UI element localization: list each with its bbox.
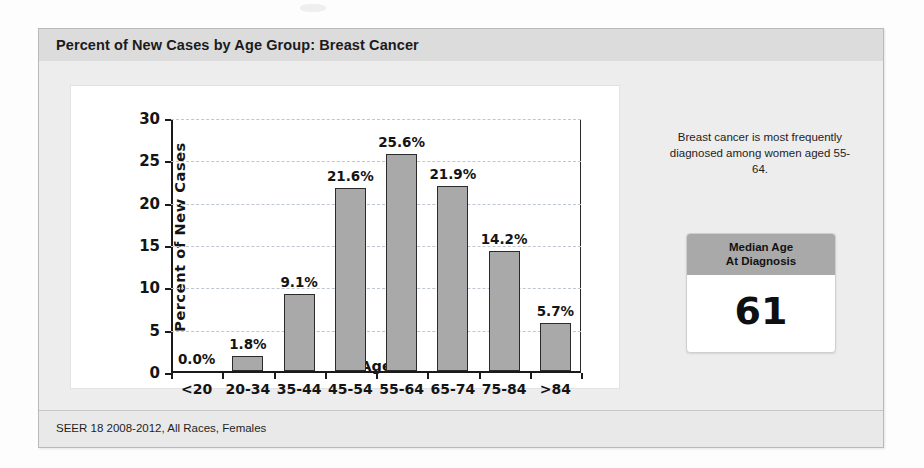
x-axis-tick-label: 55-64 [379,381,424,397]
y-axis-tick-label: 20 [139,195,160,213]
scanned-page: Percent of New Cases by Age Group: Breas… [0,0,924,468]
x-axis-tick-label: 35-44 [277,381,322,397]
bar-value-label: 25.6% [378,134,425,150]
source-note: SEER 18 2008-2012, All Races, Females [56,422,266,434]
bar [386,154,417,371]
y-axis-tick-label: 10 [139,279,160,297]
x-tick [530,373,532,379]
y-tick [165,288,171,290]
median-age-card: Median Age At Diagnosis 61 [686,233,836,353]
x-tick [376,373,378,379]
y-tick [165,161,171,163]
bar-value-label: 21.6% [327,168,374,184]
report-body: Percent of New Cases Age 051015202530 0.… [39,61,883,411]
bar-value-label: 21.9% [429,166,476,182]
x-tick [427,373,429,379]
chart-axes: 051015202530 0.0%1.8%9.1%21.6%25.6%21.9%… [171,119,581,373]
x-tick [581,373,583,379]
title-bar: Percent of New Cases by Age Group: Breas… [39,29,883,62]
y-axis-tick-label: 5 [150,322,160,340]
bar-value-label: 1.8% [229,336,266,352]
y-axis-tick-label: 0 [150,364,160,382]
median-age-header-line1: Median Age [687,240,835,254]
x-tick [479,373,481,379]
bar [540,323,571,371]
bar-value-label: 9.1% [280,274,317,290]
y-axis-tick-label: 25 [139,152,160,170]
scan-artifact [300,4,326,12]
y-tick [165,331,171,333]
median-age-card-header: Median Age At Diagnosis [687,234,835,275]
bar [335,188,366,371]
y-tick [165,119,171,121]
bar [232,356,263,371]
y-tick [165,246,171,248]
x-axis-tick-label: <20 [181,381,212,397]
x-axis-tick-label: >84 [540,381,571,397]
y-tick [165,204,171,206]
x-axis-tick-label: 65-74 [430,381,475,397]
bar [284,294,315,371]
side-panel: Breast cancer is most frequently diagnos… [659,85,861,387]
gridline [171,161,581,162]
bar [437,186,468,371]
y-axis-tick-label: 30 [139,110,160,128]
x-tick [325,373,327,379]
x-tick [171,373,173,379]
y-axis-tick-label: 15 [139,237,160,255]
x-tick [274,373,276,379]
x-tick [222,373,224,379]
x-axis-tick-label: 20-34 [225,381,270,397]
chart-plot-panel: Percent of New Cases Age 051015202530 0.… [70,85,620,389]
gridline [171,119,581,120]
footer-bar: SEER 18 2008-2012, All Races, Females [39,410,883,447]
page-title: Percent of New Cases by Age Group: Breas… [56,37,419,53]
gridline [171,204,581,205]
x-axis-tick-label: 45-54 [328,381,373,397]
x-axis-tick-label: 75-84 [482,381,527,397]
median-age-header-line2: At Diagnosis [687,254,835,268]
median-age-value: 61 [687,275,835,352]
bar-value-label: 0.0% [178,351,215,367]
bar-value-label: 14.2% [481,231,528,247]
bar [489,251,520,371]
side-note-text: Breast cancer is most frequently diagnos… [667,129,853,177]
report-card: Percent of New Cases by Age Group: Breas… [38,28,884,448]
bar-value-label: 5.7% [537,303,574,319]
